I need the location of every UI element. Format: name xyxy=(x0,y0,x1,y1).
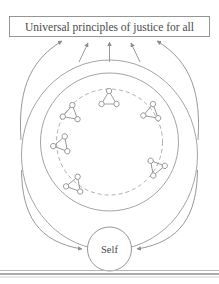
arrow-in-left xyxy=(22,170,83,249)
node-circle xyxy=(114,101,119,106)
node-circle xyxy=(64,148,71,155)
diagram-container: Universal principles of justice for all xyxy=(0,0,219,284)
moral-development-diagram: Universal principles of justice for all xyxy=(0,0,219,284)
cluster-upper-left xyxy=(60,101,83,123)
node-circle xyxy=(63,183,69,189)
cluster-group xyxy=(50,88,168,197)
node-circle xyxy=(99,101,104,106)
banner-box: Universal principles of justice for all xyxy=(10,17,210,37)
banner-label: Universal principles of justice for all xyxy=(25,21,194,34)
bottom-divider xyxy=(0,271,219,278)
node-circle xyxy=(147,157,154,164)
node-circle xyxy=(60,113,66,119)
node-circle xyxy=(74,116,80,122)
cluster-top xyxy=(99,88,119,106)
cluster-left xyxy=(50,130,75,154)
arrow-up-far-right xyxy=(157,41,199,140)
arrow-up-left xyxy=(79,43,88,62)
arrow-up-far-left xyxy=(20,41,62,140)
node-circle xyxy=(74,174,80,180)
cluster-upper-right xyxy=(140,100,167,127)
arrow-up-right xyxy=(131,43,140,62)
cluster-lower-right xyxy=(143,157,168,181)
cluster-bottom-left xyxy=(62,174,84,197)
node-circle xyxy=(69,102,75,108)
self-label: Self xyxy=(101,244,118,255)
self-node: Self xyxy=(88,227,132,271)
node-circle xyxy=(106,88,111,93)
arrow-in-right xyxy=(137,170,198,249)
node-circle xyxy=(77,188,83,194)
